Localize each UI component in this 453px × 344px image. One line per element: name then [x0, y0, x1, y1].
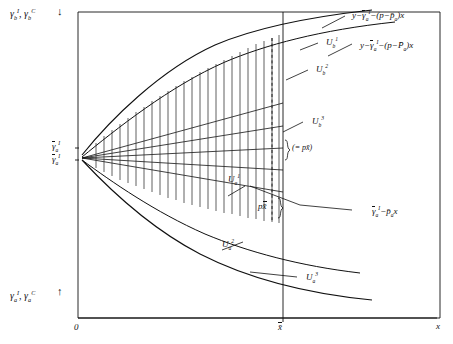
down-arrow-icon: ↓	[57, 6, 63, 17]
curve-label-u-a-1: Ua1	[228, 174, 240, 186]
ub1-sub: b	[333, 43, 336, 49]
curve-u-a-2	[82, 160, 360, 273]
annotation-equals-pxbar: (= px̄)	[292, 144, 312, 152]
gamma-a-sub: a	[14, 296, 17, 303]
eq-top-x: x	[400, 10, 404, 20]
brace-equals-pxbar	[285, 140, 290, 160]
ua3-sup: 3	[315, 271, 318, 277]
axis-label-top-left: γbI, γbC	[10, 8, 35, 22]
ub2-sup: 2	[325, 63, 328, 69]
origin-label: 0	[74, 323, 79, 332]
ytick-upper-gamma: γ	[52, 141, 56, 151]
ub2-sub: b	[323, 70, 326, 76]
figure-canvas: γbI, γbC ↓ γaI, γaC ↑ γaI γaI 0 x̄ x y−γ…	[0, 0, 453, 344]
ua1-sup: 1	[237, 173, 240, 179]
ub1-sup: 1	[335, 36, 338, 42]
curve-label-u-a-2: Ua2	[222, 239, 234, 251]
ub3-sub: b	[319, 122, 322, 128]
ua1-sub: a	[235, 180, 238, 186]
equation-lower-envelope: y−γaI−(p−P̄a)x	[360, 40, 413, 52]
gamma-b-sub-2: b	[28, 14, 31, 21]
xbar-tick-label: x̄	[278, 323, 282, 332]
eq-2-x: x	[409, 40, 413, 50]
gamma-b-sup-C: C	[31, 7, 35, 14]
ytick-lower-gamma: γ	[52, 154, 56, 164]
curve-label-u-a-3: Ua3	[306, 272, 318, 284]
gamma-a-sub-2: a	[28, 296, 31, 303]
pxbar-x: x̄	[263, 201, 267, 211]
ytick-label-upper: γaI	[52, 141, 60, 153]
up-arrow-icon: ↑	[57, 286, 63, 297]
eq-r-x: x	[394, 206, 398, 216]
equation-upper-envelope: y−γaI−(p−p̄a)x	[352, 10, 404, 22]
x-axis-label: x	[436, 322, 440, 331]
eq-2-gamma: γ	[370, 40, 374, 50]
eq-top-gamma: γ	[362, 10, 366, 20]
plot-frame	[78, 12, 440, 318]
xbar-text: x̄	[278, 322, 282, 332]
ytick-upper-sup: I	[58, 140, 60, 146]
ytick-lower-sup: I	[58, 153, 60, 159]
axis-label-bottom-left: γaI, γaC	[10, 290, 35, 304]
curve-label-u-b-3: Ub3	[312, 116, 324, 128]
ub3-sup: 3	[321, 115, 324, 121]
ua2-sub: a	[229, 245, 232, 251]
ytick-label-lower: γaI	[52, 154, 60, 166]
curve-u-b-1	[82, 22, 395, 157]
ua2-sup: 2	[231, 238, 234, 244]
eq-top-gamma-sub: a	[366, 16, 369, 22]
ua3-sub: a	[313, 278, 316, 284]
eq-2-gamma-sub: a	[374, 46, 377, 52]
gamma-a-sup-C: C	[31, 289, 35, 296]
gamma-b-sub: b	[14, 14, 17, 21]
equation-budget-line: γaI−p̄ax	[372, 206, 398, 218]
eq-r-gamma: γ	[372, 206, 376, 216]
curve-u-a-3	[82, 160, 372, 300]
curve-label-u-b-1: Ub1	[326, 37, 338, 49]
curve-label-u-b-2: Ub2	[316, 64, 328, 76]
annotation-p-xbar: px̄	[258, 202, 267, 211]
